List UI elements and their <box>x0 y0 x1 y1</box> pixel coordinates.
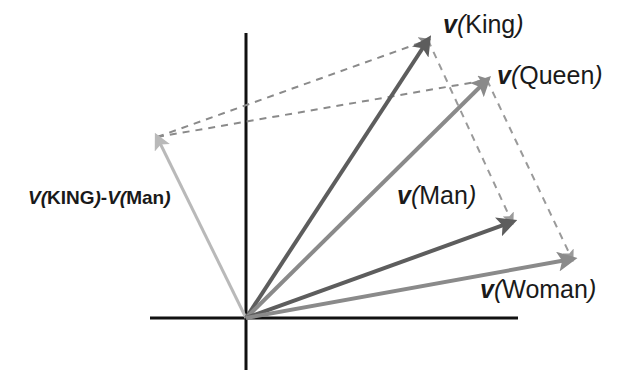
vector-label-man-word: Man <box>419 181 468 209</box>
vector-label-woman-close-paren: ) <box>588 275 596 303</box>
vector-label-woman-open-paren: ( <box>494 275 502 303</box>
dashed-connector-queen-to-woman <box>487 80 572 259</box>
vector-label-man-close-paren: ) <box>468 181 476 209</box>
vector-label-king-minus-man: V(KING)-V(Man) <box>28 188 171 207</box>
vector-label-woman-symbol: v <box>480 275 494 303</box>
vector-label-queen-symbol: v <box>497 61 511 89</box>
vector-label-king-close-paren: ) <box>515 10 523 38</box>
difference-label-close-paren-2: ) <box>164 187 170 208</box>
vector-arrow-king <box>246 40 428 318</box>
vector-label-king-word: King <box>465 10 515 38</box>
difference-label-symbol-2: V <box>107 187 120 208</box>
vector-label-queen: v(Queen) <box>497 63 603 88</box>
vector-label-man-symbol: v <box>397 181 411 209</box>
vector-label-man-open-paren: ( <box>411 181 419 209</box>
vector-diagram-figure: v(King) v(Queen) v(Man) v(Woman) V(KING)… <box>0 0 634 378</box>
vector-label-woman: v(Woman) <box>480 277 596 302</box>
vector-arrow-man <box>246 222 512 318</box>
difference-label-word-1: KING <box>47 187 95 208</box>
vector-label-man: v(Man) <box>397 183 476 208</box>
dashed-connector-difference-to-king <box>157 40 428 137</box>
vector-label-queen-open-paren: ( <box>511 61 519 89</box>
vector-arrow-king-minus-man <box>157 137 246 318</box>
vector-label-king-open-paren: ( <box>457 10 465 38</box>
difference-label-word-2: Man <box>126 187 164 208</box>
vector-label-queen-close-paren: ) <box>594 61 602 89</box>
vector-label-king: v(King) <box>443 12 524 37</box>
vector-label-woman-word: Woman <box>502 275 588 303</box>
vector-label-queen-word: Queen <box>519 61 594 89</box>
difference-label-symbol-1: V <box>28 187 41 208</box>
vector-label-king-symbol: v <box>443 10 457 38</box>
